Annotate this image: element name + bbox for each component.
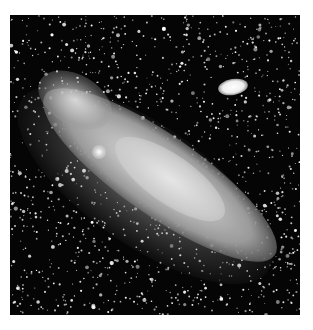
star-cluster-knot (92, 145, 106, 159)
galaxy-photo (10, 15, 300, 315)
